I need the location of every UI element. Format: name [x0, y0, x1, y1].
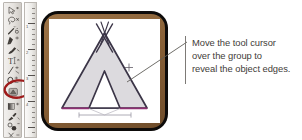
gradient-tool[interactable]	[6, 102, 21, 112]
callout-text-line-1: Move the tool cursor	[192, 36, 302, 49]
blend-tool[interactable]	[6, 122, 21, 132]
vertical-ruler[interactable]: 1 2 3 4	[24, 2, 37, 138]
ruler-label: 1	[26, 25, 28, 29]
gradient-tool-icon	[7, 102, 20, 111]
ruler-tick	[32, 96, 35, 97]
line-segment-tool-icon	[7, 66, 20, 75]
lasso-tool[interactable]	[6, 16, 21, 26]
ruler-tick	[32, 65, 35, 66]
callout-bracket	[185, 36, 186, 84]
smart-guides-tool[interactable]	[6, 87, 21, 97]
ruler-tick	[32, 91, 35, 92]
svg-text:T: T	[8, 57, 13, 65]
magic-wand-tool-icon	[7, 26, 20, 35]
tool-palette[interactable]: T	[3, 2, 22, 138]
ruler-label: 2	[26, 51, 28, 55]
ruler-tick-major	[28, 127, 35, 128]
ruler-tick	[32, 70, 35, 71]
ruler-tick	[32, 29, 35, 30]
scissors-tool[interactable]	[6, 132, 21, 138]
ruler-tick	[32, 122, 35, 123]
callout-text-line-3: reveal the object edges.	[192, 62, 302, 75]
ruler-tick	[32, 86, 35, 87]
eyedropper-tool-icon	[7, 112, 20, 121]
callout-text-line-2: over the group to	[192, 49, 302, 62]
magic-wand-tool[interactable]	[6, 26, 21, 36]
ruler-tick	[32, 81, 35, 82]
ruler-tick	[32, 112, 35, 113]
pen-tool[interactable]	[6, 36, 21, 46]
ruler-label: 3	[26, 77, 28, 81]
scissors-tool-icon	[7, 132, 20, 138]
blend-tool-icon	[7, 122, 20, 131]
callout-leader-line	[126, 38, 188, 84]
ruler-tick	[32, 13, 35, 14]
ruler-tick	[32, 18, 35, 19]
ruler-label: 4	[26, 103, 28, 107]
smart-guides-tool-icon	[7, 87, 20, 97]
type-tool-icon: T	[7, 56, 20, 65]
ruler-tick	[32, 107, 35, 108]
line-segment-tool[interactable]	[6, 66, 21, 76]
ruler-tick	[32, 117, 35, 118]
paintbrush-tool-icon	[7, 46, 20, 55]
ruler-tick-major	[28, 101, 35, 102]
ruler-tick	[32, 55, 35, 56]
smart-guide-door-trace	[89, 109, 120, 115]
ruler-tick	[32, 34, 35, 35]
ellipse-tool-icon	[7, 76, 20, 85]
figure-root: T	[0, 0, 302, 140]
pen-tool-icon	[7, 36, 20, 45]
lasso-tool-icon	[7, 16, 20, 25]
paintbrush-tool[interactable]	[6, 46, 21, 56]
direct-selection-tool[interactable]	[6, 6, 21, 16]
ellipse-tool[interactable]	[6, 76, 21, 86]
ruler-tick	[32, 8, 35, 9]
eyedropper-tool[interactable]	[6, 112, 21, 122]
ruler-tick-major	[28, 49, 35, 50]
ruler-tick	[32, 39, 35, 40]
ruler-tick	[32, 132, 35, 133]
ruler-tick-major	[28, 23, 35, 24]
ruler-tick	[32, 60, 35, 61]
callout-text: Move the tool cursor over the group to r…	[192, 36, 302, 76]
ruler-tick-major	[28, 75, 35, 76]
type-tool[interactable]: T	[6, 56, 21, 66]
ruler-tick	[32, 44, 35, 45]
direct-selection-tool-icon	[7, 6, 20, 15]
